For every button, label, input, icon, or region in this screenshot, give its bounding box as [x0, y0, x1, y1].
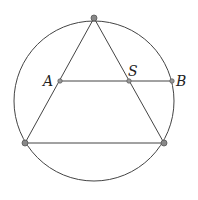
geometry-diagram: A S B — [0, 0, 198, 200]
vertex-bottom-right — [161, 140, 167, 146]
point-S — [127, 79, 131, 83]
label-A: A — [41, 73, 53, 89]
point-A — [58, 79, 62, 83]
vertex-top — [91, 15, 97, 21]
point-B — [170, 79, 174, 83]
circumcircle — [14, 21, 174, 181]
label-S: S — [128, 63, 138, 79]
vertex-bottom-left — [22, 140, 28, 146]
label-B: B — [175, 73, 186, 89]
